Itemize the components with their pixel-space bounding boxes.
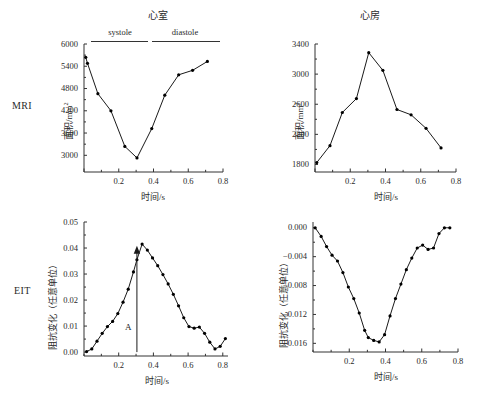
y-tick-label: 3000 bbox=[0, 150, 78, 160]
y-axis-title-sup: 2 bbox=[63, 102, 69, 105]
x-tick-label: 0.8 bbox=[442, 176, 470, 186]
data-line bbox=[86, 57, 208, 158]
y-tick-label: −0.012 bbox=[243, 309, 307, 319]
x-tick-label: 0.8 bbox=[209, 176, 237, 186]
y-tick-label: 0.03 bbox=[0, 269, 78, 279]
y-axis-title: 面积/mm2 bbox=[293, 102, 306, 140]
x-tick-label: 0.4 bbox=[372, 176, 400, 186]
y-axis-title: 面积/mm2 bbox=[62, 102, 75, 140]
y-tick-label: 3400 bbox=[243, 39, 309, 49]
x-tick-label: 0.4 bbox=[139, 360, 167, 370]
annotation-arrow bbox=[134, 246, 140, 352]
y-axis-title: 阻抗变化（任意单位） bbox=[277, 258, 290, 348]
x-tick-label: 0.2 bbox=[336, 176, 364, 186]
y-tick-label: 0.04 bbox=[0, 243, 78, 253]
x-tick-label: 0.2 bbox=[105, 360, 133, 370]
y-tick-label: 0.05 bbox=[0, 217, 78, 227]
x-tick-label: 0.6 bbox=[408, 356, 436, 366]
y-tick-label: 3000 bbox=[243, 69, 309, 79]
y-tick-label: 1800 bbox=[243, 159, 309, 169]
y-tick-label: −0.016 bbox=[243, 338, 307, 348]
annotation-label-a: A bbox=[125, 322, 132, 332]
y-tick-label: −0.008 bbox=[243, 280, 307, 290]
data-points bbox=[315, 51, 442, 164]
y-axis-title-text: 面积/mm bbox=[295, 105, 305, 140]
x-tick-label: 0.4 bbox=[372, 356, 400, 366]
y-tick-label: −0.004 bbox=[243, 251, 307, 261]
y-tick-label: 6000 bbox=[0, 39, 78, 49]
chart-eit-ventricle: 0.000.010.020.030.040.05 0.20.40.60.8 阻抗… bbox=[0, 200, 240, 396]
chart-eit-atrium: 0.000−0.004−0.008−0.012−0.016 0.20.40.60… bbox=[243, 200, 483, 396]
data-line bbox=[315, 228, 450, 342]
data-line bbox=[317, 53, 441, 163]
tick-marks bbox=[84, 44, 223, 172]
x-tick-label: 0.8 bbox=[209, 360, 237, 370]
x-tick-label: 0.8 bbox=[444, 356, 472, 366]
data-points bbox=[85, 243, 227, 354]
data-line bbox=[87, 244, 226, 351]
y-tick-label: 0.000 bbox=[243, 222, 307, 232]
x-tick-label: 0.6 bbox=[407, 176, 435, 186]
data-points bbox=[314, 226, 452, 343]
x-axis-title: 时间/s bbox=[122, 374, 192, 387]
chart-mri-ventricle-svg bbox=[0, 0, 240, 200]
figure-root: MRI EIT 心室 心房 systole diastole 300036004… bbox=[0, 0, 483, 396]
x-tick-label: 0.2 bbox=[105, 176, 133, 186]
y-tick-label: 5400 bbox=[0, 61, 78, 71]
x-tick-label: 0.2 bbox=[335, 356, 363, 366]
y-axis-title-text: 面积/mm bbox=[64, 105, 74, 140]
chart-mri-atrium: 18002200260030003400 0.20.40.60.8 面积/mm2… bbox=[243, 0, 483, 200]
y-tick-label: 0.00 bbox=[0, 347, 78, 357]
chart-mri-ventricle: 300036004200480054006000 0.20.40.60.8 面积… bbox=[0, 0, 240, 200]
x-axis-title: 时间/s bbox=[351, 370, 421, 383]
y-tick-label: 0.02 bbox=[0, 295, 78, 305]
y-axis-title: 阻抗变化（任意单位） bbox=[46, 260, 59, 350]
tick-marks bbox=[84, 222, 223, 356]
y-axis-title-sup: 2 bbox=[294, 102, 300, 105]
y-tick-label: 4800 bbox=[0, 83, 78, 93]
tick-marks bbox=[315, 44, 456, 172]
x-tick-label: 0.6 bbox=[174, 176, 202, 186]
y-tick-label: 0.01 bbox=[0, 321, 78, 331]
x-tick-label: 0.6 bbox=[174, 360, 202, 370]
x-tick-label: 0.4 bbox=[140, 176, 168, 186]
